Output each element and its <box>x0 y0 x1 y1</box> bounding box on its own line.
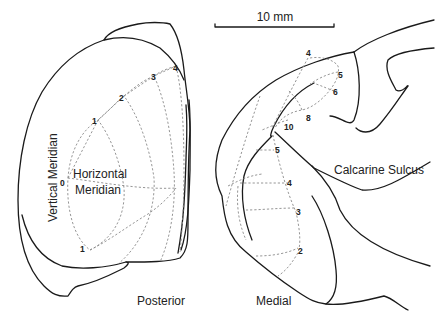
tick-3-lower: 3 <box>296 207 301 217</box>
posterior-label: Posterior <box>137 294 185 308</box>
medial-view-panel: 4 5 6 8 10 5 4 3 2 Calcarine Sulcus Medi… <box>216 20 434 310</box>
tick-10: 10 <box>284 122 294 132</box>
posterior-view-panel: 0 1 2 3 4 1 Vertical Meridian Horizontal… <box>18 23 190 309</box>
vertical-meridian-label: Vertical Meridian <box>46 133 60 222</box>
tick-5-lower: 5 <box>275 145 280 155</box>
visual-cortex-map-figure: 10 mm 0 1 2 3 4 1 Vertical Meridian Hori… <box>0 0 447 319</box>
tick-4: 4 <box>173 63 178 73</box>
scale-bar: 10 mm <box>215 10 334 27</box>
horizontal-meridian-label-2: Meridian <box>75 183 121 197</box>
tick-2-lower: 2 <box>298 246 303 256</box>
tick-5: 5 <box>338 70 343 80</box>
tick-1: 1 <box>92 116 97 126</box>
scale-bar-label: 10 mm <box>257 10 294 24</box>
horizontal-meridian-label-1: Horizontal <box>73 167 127 181</box>
medial-outer-outline <box>216 52 408 310</box>
tick-8: 8 <box>306 113 311 123</box>
medial-label: Medial <box>256 294 291 308</box>
tick-1-lower: 1 <box>80 244 85 254</box>
tick-2: 2 <box>119 93 124 103</box>
tick-4: 4 <box>306 48 311 58</box>
tick-6: 6 <box>333 87 338 97</box>
tick-0: 0 <box>60 178 65 188</box>
calcarine-sulcus-label: Calcarine Sulcus <box>334 163 424 177</box>
tick-4-lower: 4 <box>287 178 292 188</box>
tick-3: 3 <box>151 72 156 82</box>
